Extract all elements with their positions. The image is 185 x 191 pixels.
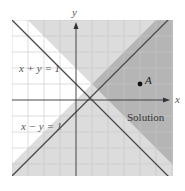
solution-label: Solution <box>127 111 164 123</box>
line-label-x-plus-y: x + y = 1 <box>19 62 60 74</box>
inequality-graph <box>0 0 185 191</box>
point-a-label: A <box>145 74 152 86</box>
x-axis-label: x <box>175 93 180 105</box>
line-label-x-minus-y: x − y = 1 <box>21 120 62 132</box>
point-a <box>138 82 143 87</box>
y-axis-label: y <box>72 6 77 18</box>
